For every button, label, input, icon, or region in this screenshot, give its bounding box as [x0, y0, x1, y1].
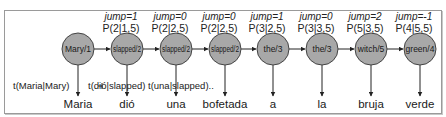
state-node: slapped/2 — [111, 33, 143, 65]
spanish-word: a — [270, 98, 277, 110]
node-label: witch/5 — [357, 44, 385, 54]
jump-label: jump=0 — [200, 11, 236, 22]
node-label: slapped/2 — [162, 44, 190, 54]
prob-label: P(5|3,5) — [346, 22, 383, 34]
translation-prob-label: t(dió|slapped) — [88, 80, 145, 91]
jump-labels: jump=1P(2|1,5)jump=0P(2|2,5)jump=0P(2|2,… — [102, 11, 432, 34]
prob-label: P(4|5,5) — [395, 22, 432, 34]
spanish-words: Mariadióunabofetadaalabrujaverde — [64, 98, 435, 110]
alignment-diagram: Mary/1slapped/2slapped/2slapped/2the/3th… — [0, 0, 446, 117]
prob-label: P(3|3,5) — [297, 22, 334, 34]
spanish-word: la — [318, 98, 328, 110]
translation-labels: t(Maria|Mary)t(dió|slapped)t(una|slapped… — [13, 80, 214, 91]
jump-label: jump=2 — [346, 11, 382, 22]
state-node: green/4 — [404, 33, 436, 65]
node-label: the/3 — [264, 44, 283, 54]
translation-prob-label: t(una|slapped).. — [148, 80, 214, 91]
node-label: the/3 — [313, 44, 332, 54]
spanish-word: bofetada — [203, 98, 248, 110]
node-label: slapped/2 — [211, 44, 239, 54]
state-node: slapped/2 — [160, 33, 192, 65]
node-label: Mary/1 — [65, 44, 91, 54]
jump-label: jump=-1 — [394, 11, 432, 22]
prob-label: P(2|2,5) — [200, 22, 237, 34]
state-node: Mary/1 — [62, 33, 94, 65]
jump-label: jump=1 — [248, 11, 283, 22]
spanish-word: Maria — [64, 98, 93, 110]
prob-label: P(2|2,5) — [151, 22, 188, 34]
spanish-word: una — [166, 98, 186, 110]
jump-label: jump=0 — [151, 11, 187, 22]
state-node: the/3 — [306, 33, 338, 65]
translation-prob-label: t(Maria|Mary) — [13, 80, 69, 91]
spanish-word: dió — [119, 98, 134, 110]
state-node: the/3 — [257, 33, 289, 65]
spanish-word: verde — [406, 98, 435, 110]
spanish-word: bruja — [358, 98, 384, 110]
node-label: slapped/2 — [113, 44, 141, 54]
prob-label: P(3|2,5) — [248, 22, 285, 34]
jump-label: jump=0 — [297, 11, 333, 22]
jump-label: jump=1 — [102, 11, 137, 22]
prob-label: P(2|1,5) — [102, 22, 139, 34]
state-node: witch/5 — [355, 33, 387, 65]
node-label: green/4 — [406, 44, 435, 54]
state-node: slapped/2 — [209, 33, 241, 65]
